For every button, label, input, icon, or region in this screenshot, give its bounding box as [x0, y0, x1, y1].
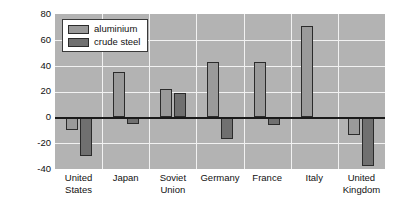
- legend-swatch-icon: [68, 25, 89, 34]
- bar-crude-steel: [221, 117, 233, 139]
- gridline-horizontal: [55, 66, 385, 67]
- bar-crude-steel: [362, 117, 374, 166]
- gridline-vertical: [196, 14, 197, 169]
- x-tick-label: Italy: [291, 172, 338, 184]
- bar-aluminium: [348, 117, 360, 135]
- bar-aluminium: [66, 117, 78, 130]
- zero-baseline: [55, 117, 385, 119]
- bar-aluminium: [301, 26, 313, 118]
- gridline-horizontal: [55, 92, 385, 93]
- x-tick-label: United States: [55, 172, 102, 195]
- gridline-vertical: [291, 14, 292, 169]
- gridline-vertical: [338, 14, 339, 169]
- y-tick-label: 20: [3, 86, 51, 96]
- legend-swatch-icon: [68, 38, 89, 47]
- legend-item-aluminium: aluminium: [68, 24, 140, 34]
- legend-label: aluminium: [94, 24, 137, 34]
- gridline-vertical: [149, 14, 150, 169]
- legend-label: crude steel: [94, 37, 140, 47]
- bar-aluminium: [254, 62, 266, 118]
- chart-legend: aluminium crude steel: [62, 19, 148, 52]
- bar-chart: percentage change (1973–88) 80 60 40 20 …: [0, 0, 394, 208]
- x-tick-label: France: [244, 172, 291, 184]
- x-tick-label: Germany: [196, 172, 243, 184]
- y-tick-label: 80: [3, 9, 51, 19]
- gridline-vertical: [244, 14, 245, 169]
- bar-aluminium: [207, 62, 219, 118]
- y-tick-label: -20: [3, 138, 51, 148]
- x-tick-label: Japan: [102, 172, 149, 184]
- x-tick-label: Soviet Union: [149, 172, 196, 195]
- y-tick-label: -40: [3, 164, 51, 174]
- bar-aluminium: [160, 89, 172, 117]
- y-tick-label: 0: [3, 112, 51, 122]
- y-axis-tick-labels: 80 60 40 20 0 -20 -40: [0, 0, 51, 208]
- gridline-horizontal: [55, 143, 385, 144]
- bar-crude-steel: [174, 93, 186, 118]
- x-tick-label: United Kingdom: [338, 172, 385, 195]
- bar-aluminium: [113, 72, 125, 117]
- y-tick-label: 40: [3, 61, 51, 71]
- y-tick-label: 60: [3, 35, 51, 45]
- legend-item-crude-steel: crude steel: [68, 37, 140, 47]
- bar-crude-steel: [80, 117, 92, 156]
